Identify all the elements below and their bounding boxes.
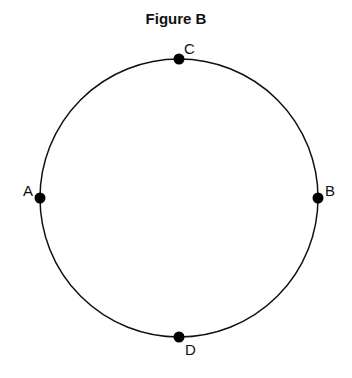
point-label-c: C <box>184 40 195 57</box>
point-a <box>35 193 46 204</box>
point-label-a: A <box>23 182 33 199</box>
circle <box>40 59 318 337</box>
point-label-d: D <box>185 341 196 358</box>
point-b <box>313 193 324 204</box>
circle-diagram: CABD <box>0 0 352 378</box>
point-label-b: B <box>325 182 335 199</box>
point-c <box>174 54 185 65</box>
point-d <box>174 332 185 343</box>
